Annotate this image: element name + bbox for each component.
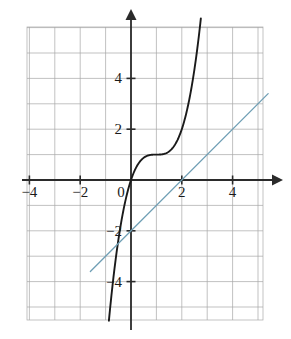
x-axis-tick-label: 2 bbox=[178, 184, 186, 200]
x-axis-tick-label: −4 bbox=[21, 184, 37, 200]
x-axis-tick-label: 4 bbox=[229, 184, 237, 200]
plot-background bbox=[0, 0, 291, 339]
y-axis-tick-label: 2 bbox=[115, 121, 123, 137]
origin-label: 0 bbox=[117, 184, 125, 200]
y-axis-tick-label: −4 bbox=[106, 274, 122, 290]
graph-figure: −4−224−4−2240 bbox=[0, 0, 291, 339]
y-axis-tick-label: 4 bbox=[115, 70, 123, 86]
coordinate-plane-svg: −4−224−4−2240 bbox=[0, 0, 291, 339]
y-axis-tick-label: −2 bbox=[106, 223, 122, 239]
x-axis-tick-label: −2 bbox=[72, 184, 88, 200]
